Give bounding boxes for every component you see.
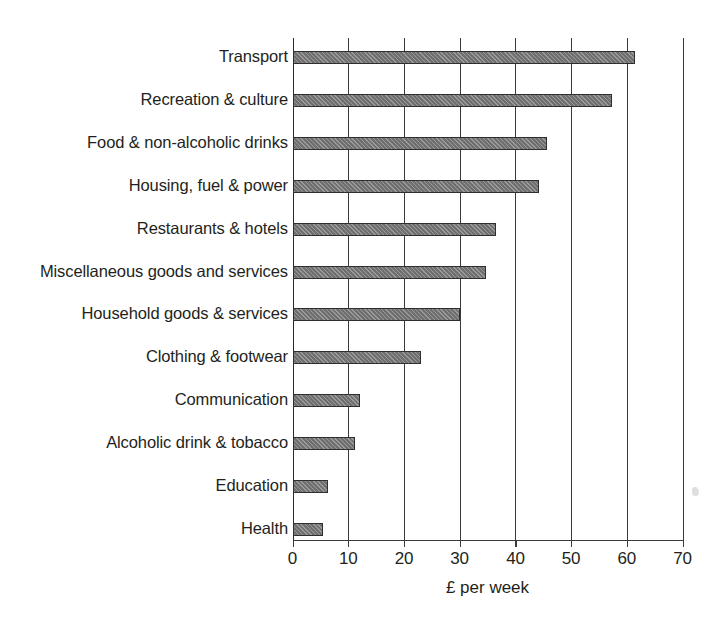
category-label: Housing, fuel & power: [129, 177, 288, 193]
x-tick-40: [515, 540, 516, 547]
x-tick-label: 50: [562, 549, 581, 569]
x-tick-50: [571, 540, 572, 547]
gridline-50: [571, 38, 572, 540]
x-axis-line: [293, 540, 684, 541]
bar-transport: [293, 51, 636, 64]
category-label: Health: [241, 520, 288, 536]
x-tick-60: [627, 540, 628, 547]
scan-artifact: [692, 487, 699, 496]
bar-misc-goods-services: [293, 266, 487, 279]
category-label: Clothing & footwear: [146, 348, 288, 364]
bar-health: [293, 523, 323, 536]
x-tick-20: [404, 540, 405, 547]
x-tick-label: 20: [395, 549, 414, 569]
bar-restaurants-hotels: [293, 223, 497, 236]
x-axis-title: £ per week: [293, 578, 683, 598]
gridline-70: [683, 38, 684, 540]
category-label: Education: [216, 477, 289, 493]
x-tick-70: [683, 540, 684, 547]
category-label: Recreation & culture: [141, 91, 289, 107]
bar-household-goods: [293, 308, 460, 321]
bar-communication: [293, 394, 360, 407]
category-label: Alcoholic drink & tobacco: [106, 434, 288, 450]
bar-education: [293, 480, 328, 493]
bar-alcoholic-tobacco: [293, 437, 355, 450]
category-label: Communication: [175, 391, 288, 407]
plot-area: [293, 38, 683, 540]
x-tick-10: [348, 540, 349, 547]
x-tick-label: 40: [506, 549, 525, 569]
gridline-40: [515, 38, 516, 540]
x-tick-label: 10: [339, 549, 358, 569]
x-tick-label: 30: [450, 549, 469, 569]
gridline-10: [348, 38, 349, 540]
category-label: Household goods & services: [81, 305, 288, 321]
category-label: Transport: [219, 48, 288, 64]
category-label: Restaurants & hotels: [137, 220, 288, 236]
x-tick-0: [293, 540, 294, 547]
x-tick-label: 60: [618, 549, 637, 569]
category-label: Miscellaneous goods and services: [40, 263, 288, 279]
gridline-60: [627, 38, 628, 540]
x-tick-30: [460, 540, 461, 547]
bar-clothing-footwear: [293, 351, 422, 364]
bar-chart: Transport Recreation & culture Food & no…: [0, 0, 716, 622]
bar-recreation-culture: [293, 94, 612, 107]
gridline-20: [404, 38, 405, 540]
bar-housing-fuel-power: [293, 180, 540, 193]
x-tick-label: 0: [288, 549, 297, 569]
y-axis-line: [293, 38, 295, 540]
x-tick-label: 70: [673, 549, 692, 569]
bar-food-drinks: [293, 137, 547, 150]
category-label: Food & non-alcoholic drinks: [87, 134, 288, 150]
gridline-30: [460, 38, 461, 540]
